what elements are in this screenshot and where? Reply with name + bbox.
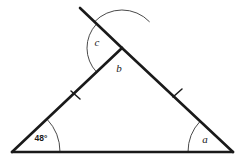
geometry-figure: 48° a b c [0, 0, 246, 159]
angle-label-48: 48° [35, 133, 48, 143]
angle-label-c: c [95, 36, 100, 48]
angle-label-a: a [202, 133, 208, 145]
angle-label-b: b [116, 62, 122, 74]
geometry-canvas: 48° a b c [0, 0, 246, 159]
